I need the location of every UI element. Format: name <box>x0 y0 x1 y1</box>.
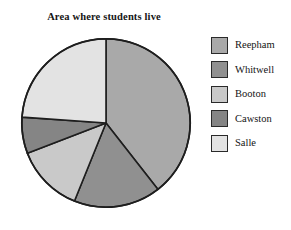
legend-label: Whitwell <box>235 65 274 76</box>
legend-swatch-salle <box>211 135 228 152</box>
legend-swatch-reepham <box>211 37 228 54</box>
legend-label: Reepham <box>235 40 275 51</box>
chart-title: Area where students live <box>0 11 208 22</box>
pie-slice-salle[interactable] <box>22 39 106 123</box>
legend-item-cawston[interactable]: Cawston <box>211 107 291 132</box>
legend-swatch-booton <box>211 86 228 103</box>
pie-plot-area <box>17 34 195 212</box>
legend-item-booton[interactable]: Booton <box>211 82 291 107</box>
legend-item-reepham[interactable]: Reepham <box>211 33 291 58</box>
legend-swatch-cawston <box>211 110 228 127</box>
chart-legend: ReephamWhitwellBootonCawstonSalle <box>211 33 291 156</box>
pie-chart-figure: Area where students live ReephamWhitwell… <box>0 0 291 230</box>
pie-svg <box>17 34 195 212</box>
legend-label: Cawston <box>235 114 272 125</box>
legend-swatch-whitwell <box>211 61 228 78</box>
legend-label: Salle <box>235 138 256 149</box>
legend-label: Booton <box>235 89 266 100</box>
legend-item-salle[interactable]: Salle <box>211 131 291 156</box>
legend-item-whitwell[interactable]: Whitwell <box>211 58 291 83</box>
